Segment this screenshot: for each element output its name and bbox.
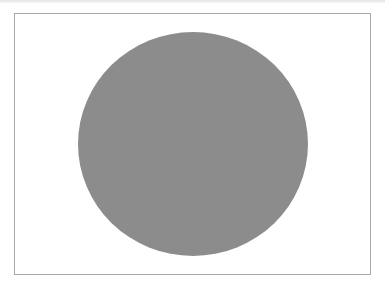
circle-shape bbox=[78, 32, 308, 256]
gray-circle bbox=[0, 0, 385, 286]
